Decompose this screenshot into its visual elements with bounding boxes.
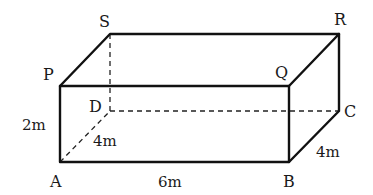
- vertex-label-d: D: [89, 97, 102, 116]
- top-face-edges: [60, 34, 339, 86]
- vertex-label-a: A: [49, 172, 62, 191]
- vertex-label-p: P: [43, 65, 54, 84]
- vertex-label-b: B: [283, 172, 295, 191]
- vertex-label-c: C: [344, 102, 356, 121]
- dimension-length-label: 6m: [158, 173, 182, 191]
- vertex-label-r: R: [334, 10, 347, 29]
- dimension-width-ad-label: 4m: [93, 132, 117, 150]
- vertex-label-q: Q: [275, 63, 288, 82]
- dimension-width-bc-label: 4m: [316, 143, 340, 161]
- vertex-label-s: S: [99, 12, 110, 31]
- cuboid-diagram: S R P Q D C A B 2m 4m 6m 4m: [0, 0, 373, 195]
- dimension-height-label: 2m: [22, 116, 46, 134]
